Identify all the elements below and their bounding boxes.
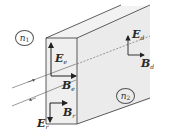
medium-n2-label: n2	[116, 88, 135, 104]
diagram-canvas	[0, 0, 192, 133]
E-transmitted-label: Ed	[132, 29, 144, 41]
E-incident-label: Ee	[55, 53, 67, 65]
E-reflected-label: Er	[37, 118, 48, 130]
B-transmitted-label: Bd	[141, 58, 154, 70]
B-reflected-label: Br	[63, 107, 75, 119]
medium-n1-label: n1	[15, 30, 34, 46]
B-incident-label: Be	[62, 80, 75, 92]
